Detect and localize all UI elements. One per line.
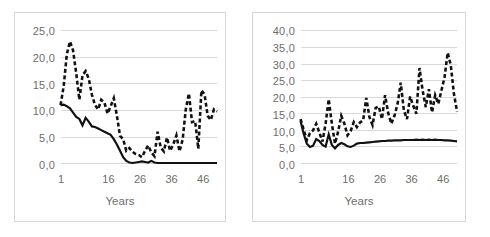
- y-tick-label: 20,0: [33, 52, 55, 64]
- y-tick-label: 40,0: [273, 25, 295, 37]
- chart-panel-right: 0,05,010,015,020,025,030,035,040,0 11626…: [252, 12, 466, 222]
- x-axis-title-left: Years: [15, 195, 225, 207]
- y-tick-label: 15,0: [273, 109, 295, 121]
- two-chart-figure: 0,05,010,015,020,025,0 116263646 Years 0…: [0, 0, 490, 237]
- x-tick-label: 1: [298, 173, 304, 185]
- y-tick-label: 20,0: [273, 92, 295, 104]
- x-tick-label: 46: [437, 173, 449, 185]
- x-tick-label: 46: [197, 173, 209, 185]
- chart-plot-area-right: 0,05,010,015,020,025,030,035,040,0 11626…: [253, 13, 465, 221]
- y-tick-label: 25,0: [273, 75, 295, 87]
- x-axis-title-right: Years: [253, 195, 465, 207]
- y-tick-label: 5,0: [39, 132, 55, 144]
- y-tick-label: 35,0: [273, 42, 295, 54]
- x-tick-label: 26: [374, 173, 386, 185]
- y-axis-labels-left: 0,05,010,015,020,025,0: [15, 13, 227, 223]
- x-tick-label: 16: [342, 173, 354, 185]
- y-tick-label: 5,0: [279, 142, 295, 154]
- y-tick-label: 30,0: [273, 59, 295, 71]
- y-tick-label: 15,0: [33, 79, 55, 91]
- y-tick-label: 10,0: [273, 126, 295, 138]
- y-axis-labels-right: 0,05,010,015,020,025,030,035,040,0: [253, 13, 467, 223]
- y-tick-label: 0,0: [279, 159, 295, 171]
- x-tick-label: 16: [102, 173, 114, 185]
- y-tick-label: 10,0: [33, 105, 55, 117]
- chart-panel-left: 0,05,010,015,020,025,0 116263646 Years: [14, 12, 226, 222]
- x-tick-label: 36: [405, 173, 417, 185]
- x-tick-label: 36: [165, 173, 177, 185]
- y-tick-label: 0,0: [39, 159, 55, 171]
- chart-plot-area-left: 0,05,010,015,020,025,0 116263646 Years: [15, 13, 225, 221]
- x-tick-label: 1: [58, 173, 64, 185]
- y-tick-label: 25,0: [33, 25, 55, 37]
- x-tick-label: 26: [134, 173, 146, 185]
